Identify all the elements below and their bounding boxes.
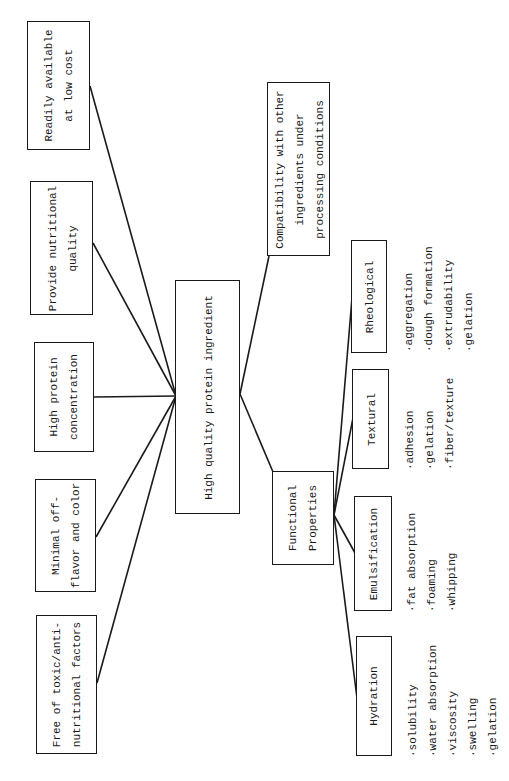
node-label: concentration	[64, 354, 84, 440]
node-compatibility: Compatibility with other ingredients und…	[267, 82, 330, 256]
node-label: Compatibility with other	[269, 90, 289, 248]
node-label: Functional	[283, 485, 303, 551]
node-label: flavor and color	[66, 483, 86, 589]
node-free-of-toxic: Free of toxic/anti- nutritional factors	[36, 615, 97, 754]
category-label: Emulsification	[363, 507, 383, 599]
node-high-quality-protein: High quality protein ingredient	[175, 280, 240, 514]
node-rheological: Rheological	[351, 240, 387, 353]
node-functional-properties: Functional Properties	[272, 471, 334, 565]
node-nutritional-quality: Provide nutritional quality	[30, 181, 93, 315]
list-item: ·extrudability	[439, 246, 459, 352]
link-functional	[240, 394, 273, 472]
emulsification-items: ·fat absorption ·foaming ·whipping	[402, 513, 462, 612]
hydration-items: ·solubility ·water absorption ·viscosity…	[403, 645, 503, 757]
list-item: ·foaming	[422, 513, 442, 612]
list-item: ·adhesion	[400, 378, 420, 470]
link-rheological	[334, 298, 352, 515]
node-label: quality	[62, 225, 82, 271]
node-readily-available: Readily available at low cost	[27, 21, 90, 150]
link-toxic	[97, 396, 176, 683]
list-item: ·fat absorption	[402, 513, 422, 612]
link-nutritional	[93, 243, 176, 396]
link-textural	[334, 418, 353, 515]
category-label: Hydration	[364, 666, 384, 725]
node-hydration: Hydration	[356, 636, 392, 756]
node-label: High protein	[44, 357, 64, 436]
list-item: ·swelling	[463, 645, 483, 757]
link-compatibility	[240, 256, 269, 394]
list-item: ·whipping	[442, 513, 462, 612]
category-label: Textural	[361, 393, 381, 446]
list-item: ·fiber/texture	[440, 378, 460, 470]
central-node-label: High quality protein ingredient	[198, 295, 218, 500]
node-label: processing conditions	[309, 100, 329, 239]
node-label: Readily available	[39, 29, 59, 141]
node-label: Minimal off-	[46, 496, 66, 575]
node-textural: Textural	[352, 369, 389, 469]
link-concentration	[94, 396, 176, 397]
node-label: Provide nutritional	[42, 185, 62, 310]
node-label: ingredients under	[289, 113, 309, 225]
category-label: Rheological	[359, 260, 379, 333]
list-item: ·gelation	[459, 246, 479, 352]
node-protein-concentration: High protein concentration	[34, 342, 94, 452]
node-label: nutritional factors	[67, 622, 87, 747]
list-item: ·viscosity	[443, 645, 463, 757]
list-item: ·gelation	[483, 645, 503, 757]
list-item: ·dough formation	[419, 246, 439, 352]
list-item: ·solubility	[403, 645, 423, 757]
node-label: at low cost	[59, 49, 79, 122]
list-item: ·aggregation	[399, 246, 419, 352]
link-offflavor	[96, 396, 176, 537]
node-minimal-off-flavor: Minimal off- flavor and color	[35, 479, 96, 592]
list-item: ·water absorption	[423, 645, 443, 757]
node-label: Properties	[303, 485, 323, 551]
rheological-items: ·aggregation ·dough formation ·extrudabi…	[399, 246, 479, 352]
textural-items: ·adhesion ·gelation ·fiber/texture	[400, 378, 460, 470]
link-readily	[90, 86, 176, 396]
node-label: Free of toxic/anti-	[47, 622, 67, 747]
node-emulsification: Emulsification	[354, 496, 392, 611]
list-item: ·gelation	[420, 378, 440, 470]
